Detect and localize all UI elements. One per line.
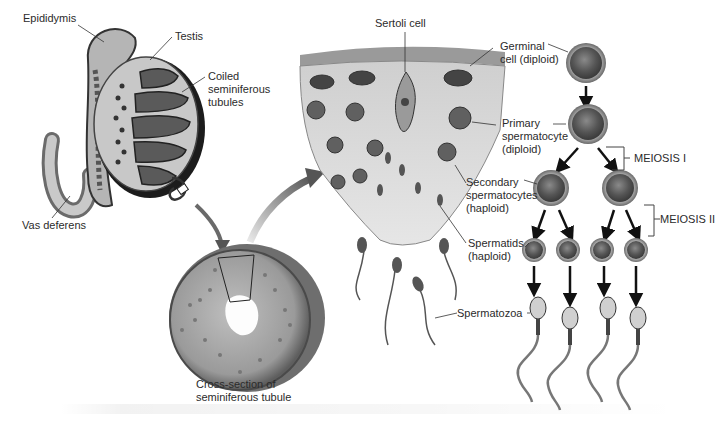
spermatozoon [548,307,578,410]
label-meiosis-2: MEIOSIS II [660,213,715,226]
label-primary-spermatocyte: Primary spermatocyte (diploid) [502,117,568,156]
spermatozoon [588,297,616,402]
label-testis: Testis [175,30,203,43]
spermatozoon [618,307,646,410]
label-spermatozoa: Spermatozoa [457,307,522,320]
label-coiled-tubules: Coiled seminiferous tubules [208,70,270,109]
label-germinal-cell: Germinal cell (diploid) [500,40,559,66]
label-vas-deferens: Vas deferens [22,219,86,232]
label-spermatids: Spermatids (haploid) [468,237,524,263]
label-sertoli-cell: Sertoli cell [375,17,426,30]
diagram-artwork [0,0,727,421]
cell-lineage [518,43,660,410]
label-epididymis: Epididymis [23,12,76,25]
label-meiosis-1: MEIOSIS I [634,152,686,165]
faded-caption-strip [60,404,680,414]
label-secondary-spermatocytes: Secondary spermatocytes (haploid) [466,176,538,215]
spermatogenesis-diagram: Epididymis Testis Coiled seminiferous tu… [0,0,727,421]
cross-section-disc [169,244,325,392]
label-cross-section: Cross-section of seminiferous tubule [196,378,291,404]
testis-illustration [50,25,205,218]
